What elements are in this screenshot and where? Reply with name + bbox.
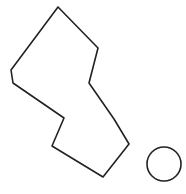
diagram-canvas [0, 0, 186, 194]
small-circle [147, 147, 181, 181]
diagram-svg [0, 0, 186, 194]
irregular-polygon [11, 7, 129, 177]
